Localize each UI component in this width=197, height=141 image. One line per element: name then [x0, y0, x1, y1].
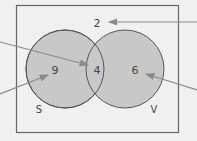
universe-count: 2: [94, 17, 101, 30]
s-only-count: 9: [52, 64, 59, 77]
v-only-count: 6: [132, 64, 139, 77]
venn-diagram: 2 9 4 6 S V: [0, 0, 197, 141]
set-v-label: V: [151, 104, 158, 115]
set-s-label: S: [36, 104, 42, 115]
intersection-count: 4: [94, 64, 101, 77]
